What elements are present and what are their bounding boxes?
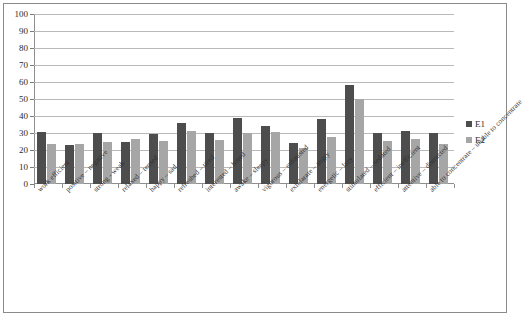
legend-label: E2 [475,136,485,145]
bar-e1 [37,132,46,184]
y-tick-label: 80 [4,44,28,53]
bar-e1 [345,85,354,184]
legend-item: E2 [466,132,510,148]
y-tick-label: 70 [4,61,28,70]
bar-group [34,14,62,184]
bar-e1 [261,126,270,184]
y-tick-label: 50 [4,95,28,104]
legend-swatch-icon [466,137,472,143]
y-tick-label: 20 [4,146,28,155]
y-tick-label: 30 [4,129,28,138]
chart-legend: E1E2 [466,116,510,148]
bar-group [174,14,202,184]
y-tick-label: 40 [4,112,28,121]
y-tick-label: 60 [4,78,28,87]
legend-label: E1 [475,120,485,129]
y-tick-label: 100 [4,10,28,19]
bar-e1 [177,123,186,184]
y-tick-label: 10 [4,163,28,172]
bar-group [118,14,146,184]
legend-item: E1 [466,116,510,132]
legend-swatch-icon [466,121,472,127]
y-tick-label: 90 [4,27,28,36]
x-axis-labels: work efficientpositive – negativestrong … [0,186,512,316]
